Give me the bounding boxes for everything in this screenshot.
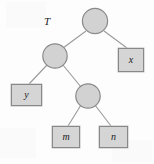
edge-left-internal-to-y-leaf: [29, 65, 47, 84]
leaf-label-x: x: [119, 55, 143, 65]
node-lower-internal: [76, 84, 100, 108]
edge-root-to-x-leaf: [104, 31, 127, 48]
edge-lower-internal-to-m-leaf: [68, 105, 81, 126]
edge-root-to-left-internal: [63, 31, 86, 48]
node-root: [82, 8, 107, 33]
edge-lower-internal-to-n-leaf: [95, 105, 111, 126]
leaf-node-n: n: [99, 126, 128, 148]
leaf-label-m: m: [53, 132, 79, 142]
leaf-label-y: y: [12, 90, 41, 100]
edge-left-internal-to-lower-internal: [63, 65, 81, 87]
leaf-node-x: x: [118, 48, 144, 72]
leaf-label-n: n: [100, 132, 127, 142]
tree-edges: [29, 31, 127, 126]
node-left-internal: [43, 44, 67, 68]
leaf-node-m: m: [52, 126, 80, 148]
tree-internal-nodes: [43, 8, 108, 108]
binary-tree-figure: x y m n T: [0, 0, 154, 164]
leaf-node-y: y: [11, 84, 42, 106]
